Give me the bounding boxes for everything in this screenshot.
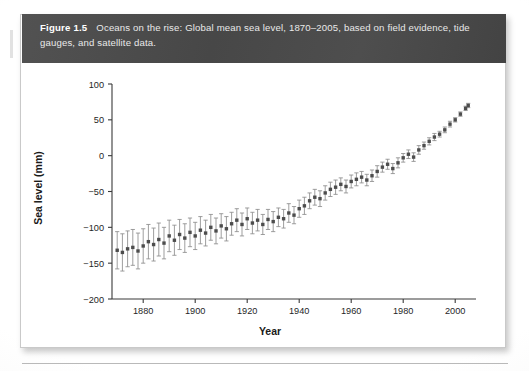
y-axis-title: Sea level (mm)	[32, 151, 44, 225]
error-bars	[115, 103, 470, 271]
y-axis-tick-labels: 100500−50−100−150−200	[83, 80, 104, 305]
x-axis-tick-labels: 1880190019201940196019802000	[133, 306, 465, 316]
data-points	[116, 104, 470, 254]
x-tick-label-0: 1880	[133, 306, 153, 316]
y-tick-label-0: 100	[89, 80, 104, 90]
x-tick-label-5: 1980	[393, 306, 413, 316]
figure-caption-band: Figure 1.5Oceans on the rise: Global mea…	[22, 14, 506, 63]
x-tick-label-1: 1900	[185, 306, 205, 316]
y-tick-label-1: 50	[94, 115, 104, 125]
y-tick-label-2: 0	[99, 151, 104, 161]
y-tick-label-4: −100	[83, 223, 104, 233]
x-axis-title: Year	[259, 325, 281, 337]
x-tick-label-2: 1920	[237, 306, 257, 316]
y-tick-label-6: −200	[83, 295, 104, 305]
y-tick-label-5: −150	[83, 259, 104, 269]
figure-caption: Figure 1.5Oceans on the rise: Global mea…	[40, 21, 492, 50]
page-edge-mark	[10, 30, 13, 58]
chart-plot-area: 100500−50−100−150−200 188019001920194019…	[20, 63, 506, 348]
figure-caption-text: Oceans on the rise: Global mean sea leve…	[40, 22, 470, 48]
page-horizontal-rule	[22, 363, 508, 364]
x-tick-label-4: 1960	[341, 306, 361, 316]
sea-level-chart: 100500−50−100−150−200 188019001920194019…	[20, 63, 506, 348]
x-tick-label-6: 2000	[445, 306, 465, 316]
y-tick-label-3: −50	[88, 187, 104, 197]
chart-axes	[108, 84, 476, 303]
figure-label: Figure 1.5	[40, 22, 87, 33]
x-tick-label-3: 1940	[289, 306, 309, 316]
